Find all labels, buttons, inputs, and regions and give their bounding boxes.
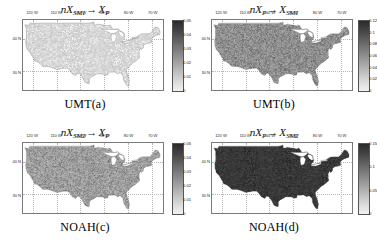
lon-tick-2: 100 W [74,10,86,15]
panel-c-map-area: 120 W 110 W 100 W 90 W 80 W 70 W 40 N 30… [22,142,164,214]
lon-tick-5: 70 W [337,133,346,138]
arrow-icon: → [85,126,98,138]
lat-tick-0: 40 N [195,36,210,41]
panel-c-data-layer [23,143,163,213]
cbtick-b-3: 0.06 [369,53,377,58]
panel-d-data-layer [212,143,352,213]
panel-b-mapbox [211,19,353,91]
panel-d-mapbox [211,142,353,214]
panel-c-mapbox [22,142,164,214]
panel-a-caption: UMT(a) [0,97,170,112]
cbtick-b-4: 0.04 [369,64,377,69]
lon-tick-3: 90 W [100,133,109,138]
lat-tick-1: 30 N [6,69,21,74]
panel-a-mapbox [22,19,164,91]
lat-tick-1: 30 N [195,192,210,197]
panel-d-colorbar-gradient [359,144,369,214]
cbtick-d-2: 0.05 [369,187,377,192]
panel-umt-a: nXSM1→XP 120 W 110 W 100 W 90 W 80 W 70 … [0,0,188,123]
lon-tick-1: 110 W [50,133,61,138]
cbtick-c-5: 0 [183,211,185,216]
lat-tick-0: 40 N [6,36,21,41]
panel-b-colorbar-gradient [359,21,369,91]
panel-b-caption: UMT(b) [189,97,359,112]
lon-tick-0: 120 W [26,10,38,15]
panel-b-data-layer [212,20,352,90]
lon-tick-0: 120 W [26,133,38,138]
panel-umt-b: nXP→XSM1 120 W 110 W 100 W 90 W 80 W 70 … [189,0,377,123]
lon-tick-5: 70 W [337,10,346,15]
lon-tick-4: 80 W [124,133,133,138]
lon-tick-2: 100 W [263,10,275,15]
arrow-icon: → [85,3,98,15]
panel-d-caption: NOAH(d) [189,220,359,235]
panel-a-data-layer [23,20,163,90]
panel-noah-c: nXSM2→XP 120 W 110 W 100 W 90 W 80 W 70 … [0,123,188,246]
panel-noah-d: nXP→XSM2 120 W 110 W 100 W 90 W 80 W 70 … [189,123,377,246]
lon-tick-2: 100 W [74,133,86,138]
cbtick-b-1: 0.1 [369,29,375,34]
panel-d-map-area: 120 W 110 W 100 W 90 W 80 W 70 W 40 N 30… [211,142,353,214]
panel-b-map-area: 120 W 110 W 100 W 90 W 80 W 70 W 40 N 30… [211,19,353,91]
lon-tick-4: 80 W [313,133,322,138]
cbtick-b-5: 0.02 [369,76,377,81]
lat-tick-0: 40 N [195,159,210,164]
lon-tick-3: 90 W [100,10,109,15]
cbtick-d-3: 0 [369,211,371,216]
panel-c-caption: NOAH(c) [0,220,170,235]
lon-tick-1: 110 W [239,10,250,15]
cbtick-b-6: 0 [369,88,371,93]
lon-tick-4: 80 W [124,10,133,15]
panel-a-colorbar-gradient [173,21,183,91]
lon-tick-5: 70 W [148,133,157,138]
lon-tick-2: 100 W [263,133,275,138]
cbtick-d-0: 0.15 [369,141,377,146]
lon-tick-5: 70 W [148,10,157,15]
lon-tick-0: 120 W [215,133,227,138]
lon-tick-1: 110 W [239,133,250,138]
lon-tick-1: 110 W [50,10,61,15]
lon-tick-4: 80 W [313,10,322,15]
lat-tick-0: 40 N [6,159,21,164]
lat-tick-1: 30 N [6,192,21,197]
lon-tick-0: 120 W [215,10,227,15]
lon-tick-3: 90 W [289,10,298,15]
panel-d-colorbar [358,143,370,215]
panel-a-map-area: 120 W 110 W 100 W 90 W 80 W 70 W 40 N 30… [22,19,164,91]
cbtick-a-5: 0 [183,88,185,93]
panel-c-colorbar-gradient [173,144,183,214]
lon-tick-3: 90 W [289,133,298,138]
lat-tick-1: 30 N [195,69,210,74]
multi-panel-figure: nXSM1→XP 120 W 110 W 100 W 90 W 80 W 70 … [0,0,377,246]
cbtick-b-0: 0.12 [369,18,377,23]
cbtick-d-1: 0.1 [369,164,375,169]
cbtick-b-2: 0.08 [369,41,377,46]
